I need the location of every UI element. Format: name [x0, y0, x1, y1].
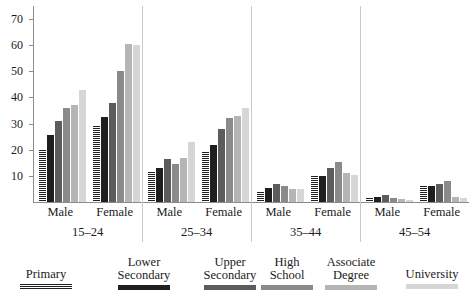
bar: [47, 135, 54, 202]
bar: [55, 121, 62, 202]
y-tick-label: 50: [11, 65, 23, 77]
bar: [226, 118, 233, 202]
legend-swatch: [20, 284, 72, 289]
legend-swatch: [261, 285, 313, 290]
bar: [156, 168, 163, 202]
y-tick-label: 20: [11, 144, 23, 156]
sex-label: Male: [374, 206, 400, 219]
bar: [172, 164, 179, 202]
bar: [390, 198, 397, 202]
bar: [281, 186, 288, 202]
bar: [210, 145, 217, 202]
y-tick-label: 30: [11, 118, 23, 130]
legend-label: University: [389, 268, 475, 281]
bar: [327, 168, 334, 202]
bar: [265, 188, 272, 202]
bar: [460, 198, 467, 202]
bar: [39, 150, 46, 202]
age-group-label: 35–44: [290, 226, 321, 239]
bar: [366, 198, 373, 202]
bar: [398, 199, 405, 202]
age-group-divider: [251, 202, 252, 242]
bar: [93, 126, 100, 202]
bar: [436, 184, 443, 202]
bar: [319, 176, 326, 202]
legend-label: Lower Secondary: [101, 256, 187, 282]
sex-label: Male: [265, 206, 291, 219]
age-group-label: 15–24: [72, 226, 103, 239]
bar: [444, 181, 451, 202]
bar: [406, 200, 413, 202]
y-tick-label: 70: [11, 13, 23, 25]
bar: [148, 172, 155, 202]
bar: [382, 195, 389, 202]
y-tick-label: 60: [11, 39, 23, 51]
y-tick-label: 40: [11, 91, 23, 103]
bar: [234, 116, 241, 202]
legend-item[interactable]: Associate Degree: [308, 256, 394, 290]
bar: [71, 105, 78, 202]
sex-label: Female: [205, 206, 242, 219]
age-group-label: 25–34: [181, 226, 212, 239]
bar: [218, 129, 225, 202]
bar: [164, 159, 171, 202]
bar: [109, 103, 116, 202]
age-group-label: 45–54: [399, 226, 430, 239]
legend-item[interactable]: Primary: [3, 268, 89, 289]
bar: [79, 90, 86, 202]
sex-label: Male: [47, 206, 73, 219]
bar: [202, 152, 209, 202]
bar: [335, 162, 342, 203]
legend-swatch: [118, 285, 170, 290]
bar: [297, 189, 304, 202]
plot-area: 10203040506070: [33, 6, 469, 202]
bar: [125, 44, 132, 202]
bar: [180, 158, 187, 202]
legend-swatch: [406, 284, 458, 289]
bar: [257, 192, 264, 202]
sex-label: Male: [156, 206, 182, 219]
sex-label: Female: [96, 206, 133, 219]
age-group-divider: [142, 202, 143, 242]
bar: [420, 186, 427, 202]
legend-label: Associate Degree: [308, 256, 394, 282]
sex-label: Female: [314, 206, 351, 219]
y-tick-label: 10: [11, 170, 23, 182]
bar: [188, 142, 195, 202]
bar: [63, 108, 70, 202]
bar: [452, 197, 459, 202]
bar: [101, 117, 108, 202]
bar: [273, 184, 280, 202]
legend-swatch: [325, 285, 377, 290]
bar: [289, 189, 296, 202]
legend-label: Primary: [3, 268, 89, 281]
sex-label: Female: [423, 206, 460, 219]
grouped-bar-chart: 10203040506070 MaleFemaleMaleFemaleMaleF…: [0, 0, 476, 305]
bar: [242, 108, 249, 202]
bar: [351, 175, 358, 202]
chart-legend: PrimaryLower SecondaryUpper SecondaryHig…: [0, 250, 476, 305]
bar: [117, 71, 124, 202]
age-group-divider: [360, 202, 361, 242]
bar: [133, 45, 140, 202]
bar: [343, 173, 350, 202]
bar: [374, 197, 381, 202]
bar: [428, 186, 435, 202]
legend-item[interactable]: Lower Secondary: [101, 256, 187, 290]
legend-item[interactable]: University: [389, 268, 475, 289]
bars-layer: [33, 6, 469, 202]
bar: [311, 176, 318, 202]
